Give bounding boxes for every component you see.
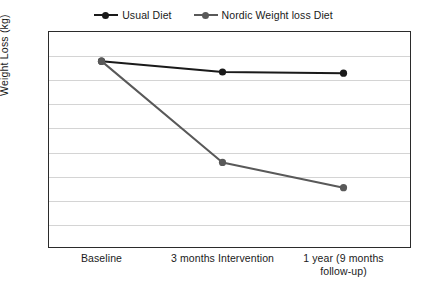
legend-label-nordic-diet: Nordic Weight loss Diet xyxy=(222,10,333,21)
legend-dot-usual-diet xyxy=(102,12,109,19)
gridline xyxy=(49,177,410,178)
gridline xyxy=(49,153,410,154)
x-axis-tick-label: 1 year (9 months follow-up) xyxy=(284,252,404,278)
gridline xyxy=(49,225,410,226)
gridline xyxy=(49,128,410,129)
gridline xyxy=(49,56,410,57)
plot-area xyxy=(48,31,411,248)
x-axis-tick-label: 3 months Intervention xyxy=(163,252,283,265)
chart-legend: Usual Diet Nordic Weight loss Diet xyxy=(0,6,427,24)
gridline xyxy=(49,80,410,81)
x-axis-tick-label: Baseline xyxy=(42,252,162,265)
weight-loss-line-chart: Usual Diet Nordic Weight loss Diet Weigh… xyxy=(0,0,427,283)
legend-marker-nordic-diet xyxy=(194,10,218,20)
legend-dot-nordic-diet xyxy=(202,12,209,19)
legend-marker-usual-diet xyxy=(94,10,118,20)
legend-item-nordic-diet: Nordic Weight loss Diet xyxy=(194,10,333,21)
y-axis-title: Weight Loss (kg) xyxy=(0,14,10,96)
legend-label-usual-diet: Usual Diet xyxy=(122,10,171,21)
gridline xyxy=(49,201,410,202)
legend-item-usual-diet: Usual Diet xyxy=(94,10,171,21)
gridline xyxy=(49,104,410,105)
